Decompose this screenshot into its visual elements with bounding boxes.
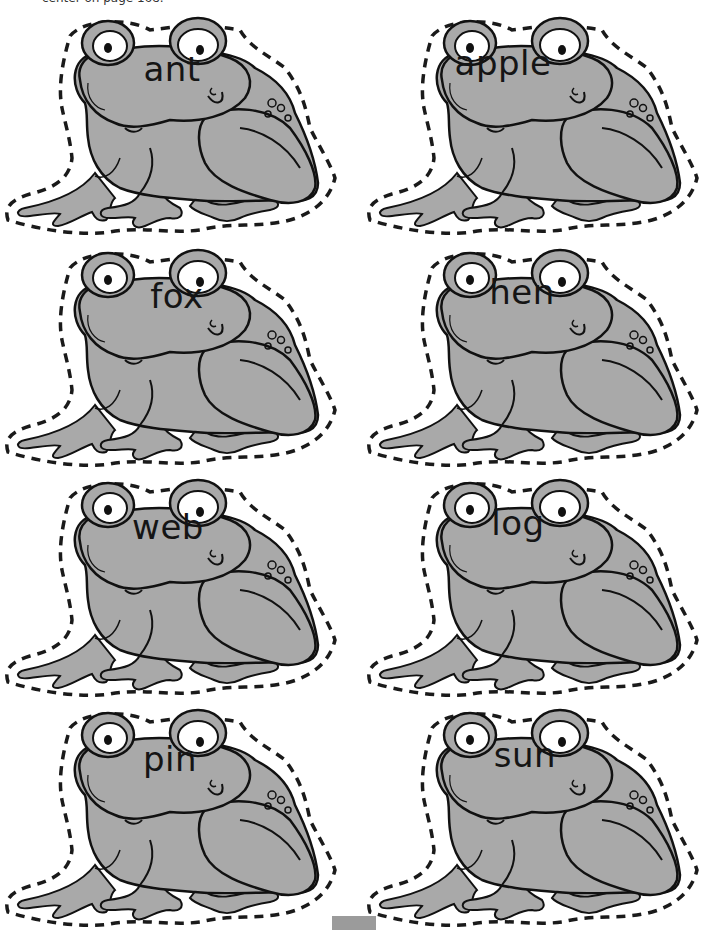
frog-word-label: apple: [455, 46, 552, 80]
frog-illustration: [0, 8, 345, 236]
frog-word-label: fox: [150, 279, 203, 313]
frog-word-label: ant: [143, 52, 200, 86]
front-foot-left: [380, 865, 477, 918]
front-foot-left: [380, 405, 477, 458]
frog-word-label: pin: [143, 742, 197, 776]
front-foot-left: [380, 173, 477, 226]
frog-word-label: sun: [494, 738, 556, 772]
front-foot-left: [18, 173, 115, 226]
front-foot-left: [18, 635, 115, 688]
left-eye: [444, 253, 496, 297]
frog-illustration: [0, 700, 345, 928]
left-eye: [444, 483, 496, 527]
frog-cutout-card: [0, 700, 345, 928]
frog-cutout-card: [0, 470, 345, 698]
frog-illustration: [0, 470, 345, 698]
left-eye: [82, 483, 134, 527]
frog-illustration: [0, 240, 345, 468]
left-eye: [82, 253, 134, 297]
header-note: center on page 168.: [42, 0, 164, 5]
frog-cutout-card: [0, 240, 345, 468]
front-foot-left: [380, 635, 477, 688]
frog-word-label: hen: [489, 275, 555, 309]
front-foot-left: [18, 865, 115, 918]
page-tab-marker: [332, 916, 376, 930]
left-eye: [82, 713, 134, 757]
frog-cutout-card: [0, 8, 345, 236]
front-foot-left: [18, 405, 115, 458]
left-eye: [82, 21, 134, 65]
frog-word-label: web: [132, 510, 204, 544]
left-eye: [444, 713, 496, 757]
frog-word-label: log: [491, 506, 544, 540]
